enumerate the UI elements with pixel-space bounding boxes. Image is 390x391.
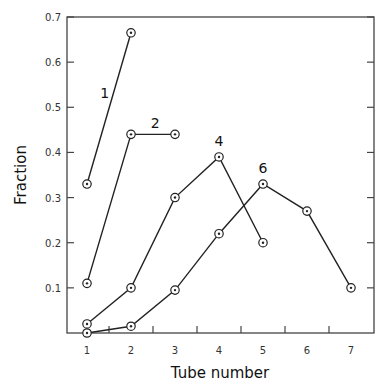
data-point-dot [86,332,88,334]
x-tick-label: 6 [304,345,310,356]
x-tick-label: 1 [84,345,90,356]
series-label: 2 [151,115,160,131]
axes: 0.10.20.30.40.50.60.71234567 [45,12,374,356]
y-tick-label: 0.7 [45,12,61,23]
data-point-dot [174,133,176,135]
y-tick-label: 0.3 [45,193,61,204]
series-6: 6 [83,160,355,337]
data-point-dot [218,156,220,158]
x-tick-label: 2 [128,345,134,356]
y-tick-label: 0.6 [45,57,61,68]
data-point-dot [86,323,88,325]
plot-frame [67,17,374,333]
y-tick-label: 0.5 [45,102,61,113]
series-line [87,157,263,324]
data-point-dot [218,232,220,234]
series-line [87,134,175,283]
x-tick-label: 4 [216,345,222,356]
data-point-dot [130,32,132,34]
y-axis-title: Fraction [12,145,30,205]
data-point-dot [86,183,88,185]
data-point-dot [174,289,176,291]
x-tick-label: 3 [172,345,178,356]
data-point-dot [130,287,132,289]
y-tick-label: 0.4 [45,147,61,158]
x-axis-title: Tube number [170,364,270,382]
series-layer: 1246 [83,29,355,338]
data-point-dot [86,282,88,284]
series-line [87,33,131,184]
series-label: 4 [215,133,224,149]
series-2: 2 [83,115,179,288]
x-tick-label: 7 [348,345,354,356]
x-tick-label: 5 [260,345,266,356]
series-label: 1 [100,85,109,101]
data-point-dot [306,210,308,212]
series-1: 1 [83,29,135,189]
data-point-dot [130,133,132,135]
series-line [87,184,351,333]
data-point-dot [350,287,352,289]
data-point-dot [262,183,264,185]
data-point-dot [174,196,176,198]
series-4: 4 [83,133,267,329]
data-point-dot [130,325,132,327]
series-label: 6 [259,160,268,176]
data-point-dot [262,242,264,244]
chart: 0.10.20.30.40.50.60.71234567 1246 Tube n… [0,0,390,391]
y-tick-label: 0.2 [45,238,61,249]
y-tick-label: 0.1 [45,283,61,294]
